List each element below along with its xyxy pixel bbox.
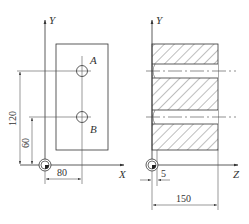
x-axis-label: X [118, 168, 127, 180]
y-axis-label-front: Y [49, 14, 57, 26]
front-view: Y X A B 120 60 80 [7, 14, 127, 184]
hole-a-label: A [89, 54, 97, 66]
dimension-120: 120 [7, 111, 18, 126]
part-section-hatched [152, 44, 218, 150]
side-view: Y Z 5 150 [140, 14, 240, 210]
hole-b-label: B [90, 123, 97, 135]
origin-symbol-front [39, 159, 51, 171]
dimension-60: 60 [20, 138, 31, 148]
origin-symbol-side [146, 159, 158, 171]
dimension-5: 5 [161, 168, 166, 179]
dimension-150: 150 [176, 193, 191, 204]
dimension-80: 80 [57, 167, 67, 178]
y-axis-label-side: Y [156, 14, 164, 26]
z-axis-label: Z [233, 168, 240, 180]
technical-drawing: Y X A B 120 60 80 [0, 0, 249, 224]
